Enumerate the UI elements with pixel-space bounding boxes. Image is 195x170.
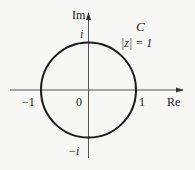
neg-real-label: −1 (22, 95, 35, 109)
real-axis-label: Re (167, 95, 180, 109)
pos-imag-label: i (80, 27, 83, 41)
curve-name-label: C (136, 19, 145, 34)
neg-imag-label: −i (68, 144, 79, 158)
unit-circle-diagram: Im Re i −i 0 1 −1 C |z| = 1 (0, 0, 195, 170)
origin-label: 0 (76, 95, 82, 109)
pos-real-label: 1 (139, 95, 145, 109)
imaginary-axis-label: Im (72, 8, 86, 22)
curve-equation-label: |z| = 1 (121, 36, 152, 50)
